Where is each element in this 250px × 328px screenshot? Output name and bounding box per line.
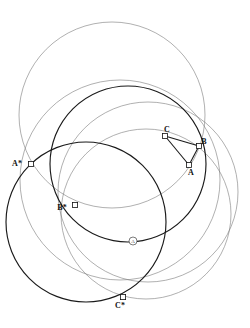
point-marker-As — [28, 161, 33, 166]
point-label-Cs: C* — [115, 301, 125, 310]
center-marker-label: A — [131, 239, 135, 244]
point-label-As: A* — [12, 159, 22, 168]
circle-construction-diagram: ABCA*B*C* A — [0, 0, 250, 328]
point-label-B: B — [201, 137, 207, 146]
point-label-A: A — [188, 168, 194, 177]
point-marker-C — [162, 133, 167, 138]
point-marker-Cs — [120, 294, 125, 299]
point-label-C: C — [164, 125, 170, 134]
point-marker-Bs — [72, 202, 77, 207]
center-marker-group: A — [129, 237, 137, 245]
geometry-figure: ABCA*B*C* A — [0, 0, 250, 328]
point-label-Bs: B* — [57, 203, 66, 212]
point-marker-A — [186, 162, 191, 167]
